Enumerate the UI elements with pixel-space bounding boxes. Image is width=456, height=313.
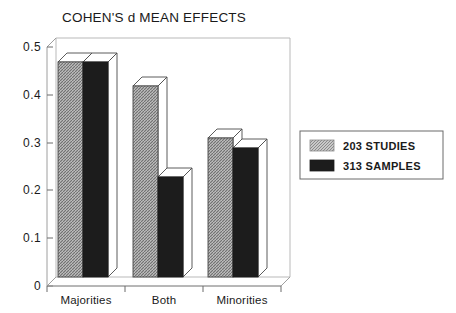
y-tick-label: 0.2 bbox=[23, 183, 41, 197]
x-tick-label-both: Both bbox=[152, 294, 176, 306]
legend-label: 313 SAMPLES bbox=[343, 160, 421, 172]
y-tick-label: 0.4 bbox=[23, 88, 41, 102]
cohens-d-bar-chart: COHEN'S d MEAN EFFECTS 0.5 0.4 bbox=[0, 0, 456, 313]
legend-item-203-studies[interactable]: 203 STUDIES bbox=[310, 140, 415, 152]
x-tick-label-majorities: Majorities bbox=[60, 294, 111, 306]
y-tick-0.3: 0.3 bbox=[23, 136, 53, 150]
bar-majorities-313-samples[interactable] bbox=[83, 53, 117, 277]
y-tick-0.4: 0.4 bbox=[23, 88, 53, 102]
bar-group-majorities bbox=[58, 53, 117, 277]
legend-item-313-samples[interactable]: 313 SAMPLES bbox=[310, 160, 421, 172]
y-tick-label: 0.5 bbox=[23, 40, 41, 54]
bar-both-313-samples[interactable] bbox=[158, 168, 192, 277]
y-tick-0.1: 0.1 bbox=[23, 231, 53, 245]
solid-black-swatch-icon bbox=[310, 160, 334, 171]
y-axis: 0.5 0.4 0.3 0.2 0.1 bbox=[23, 40, 53, 293]
y-tick-0.5: 0.5 bbox=[23, 40, 53, 54]
y-tick-0.2: 0.2 bbox=[23, 183, 53, 197]
y-tick-label: 0.1 bbox=[23, 231, 41, 245]
y-tick-label: 0.3 bbox=[23, 136, 41, 150]
bar-group-minorities bbox=[208, 129, 267, 277]
chart-container: COHEN'S d MEAN EFFECTS 0.5 0.4 bbox=[0, 0, 456, 313]
chart-title: COHEN'S d MEAN EFFECTS bbox=[62, 10, 246, 25]
x-axis: Majorities Both Minorities bbox=[47, 286, 281, 306]
legend-label: 203 STUDIES bbox=[343, 140, 415, 152]
y-tick-label: 0 bbox=[34, 279, 41, 293]
chart-legend: 203 STUDIES 313 SAMPLES bbox=[300, 131, 443, 179]
hatched-gray-swatch-icon bbox=[310, 140, 334, 151]
x-tick-label-minorities: Minorities bbox=[216, 294, 267, 306]
bar-minorities-313-samples[interactable] bbox=[233, 139, 267, 277]
